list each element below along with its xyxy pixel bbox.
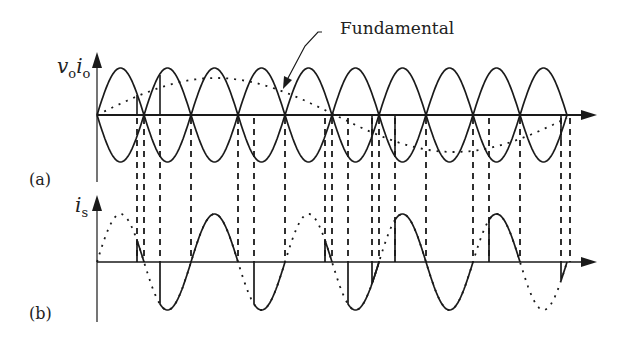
fundamental-leader-line [287,32,322,80]
panel-b-x-arrow-icon [581,257,597,267]
current-segment [348,262,379,310]
panel-b-y-label: is [75,193,88,220]
current-pulse [325,240,332,262]
i-subscript: o [83,66,91,81]
fundamental-leader [283,32,322,89]
panel-a-y-label: voio [57,54,90,81]
current-segment [489,214,520,262]
panel-b-label: (b) [29,304,52,323]
switching-instant-dashed-lines [137,118,570,262]
s-subscript: s [81,205,88,220]
v-symbol: v [57,54,68,78]
v-subscript: o [68,66,76,81]
waveform-diagram [0,0,624,338]
current-pulse [561,262,567,281]
current-pulse [137,240,144,262]
panel-a-label: (a) [29,170,51,189]
fundamental-arrow-icon [283,76,292,89]
panel-a-x-arrow-icon [581,110,597,120]
axes [92,52,597,322]
fundamental-label: Fundamental [340,18,454,38]
current-segment [254,262,285,310]
panel-b-y-arrow-icon [92,195,102,211]
current-pulse [372,262,379,284]
panel-a-y-arrow-icon [92,52,102,68]
